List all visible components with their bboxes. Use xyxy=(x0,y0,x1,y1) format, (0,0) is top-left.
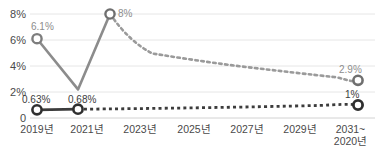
chart-container: 8% 6% 4% 2% 0 6.1% 8% 2.9 xyxy=(0,0,375,151)
x-tick-label-2023: 2023년 xyxy=(113,124,167,136)
data-point-marker xyxy=(73,105,82,114)
x-tick-label-2027: 2027년 xyxy=(220,124,274,136)
data-point-marker xyxy=(105,9,114,18)
x-tick-label-2031-range-line1: 2031~ xyxy=(326,124,375,136)
data-point-marker xyxy=(32,34,41,43)
data-label-lower-start: 0.63% xyxy=(22,95,50,105)
data-label-lower-second: 0.68% xyxy=(68,95,96,105)
data-label-upper-end: 2.9% xyxy=(339,65,362,75)
data-label-lower-end: 1% xyxy=(345,90,359,100)
x-tick-label-2021: 2021년 xyxy=(60,124,114,136)
x-tick-label-2031-range-line2: 2020년 xyxy=(326,136,375,148)
series-upper-dashed xyxy=(110,14,358,81)
x-tick-label-2025: 2025년 xyxy=(167,124,221,136)
series-lower-dashed xyxy=(78,104,358,109)
data-point-marker xyxy=(32,105,41,114)
data-point-marker xyxy=(353,76,362,85)
data-point-marker xyxy=(353,100,362,109)
series-upper xyxy=(32,9,362,89)
x-tick-label-2019: 2019년 xyxy=(10,124,64,136)
data-label-upper-start: 6.1% xyxy=(31,22,54,32)
x-tick-label-2029: 2029년 xyxy=(273,124,327,136)
series-lower-solid xyxy=(37,109,78,110)
data-label-upper-peak: 8% xyxy=(118,9,132,19)
